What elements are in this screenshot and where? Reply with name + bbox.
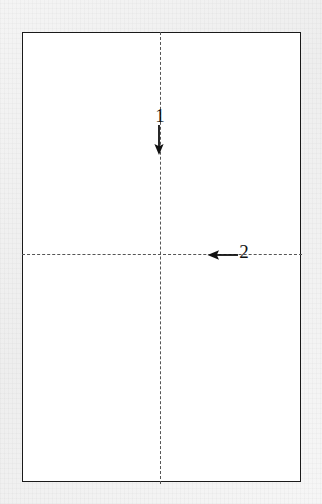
vertical-center-fold-line xyxy=(160,32,161,484)
step-label-2: 2 xyxy=(236,242,252,261)
step-label-1: 1 xyxy=(152,106,168,125)
horizontal-center-fold-line xyxy=(22,254,302,255)
paper-sheet xyxy=(22,32,301,482)
figure-canvas: 1 2 xyxy=(0,0,322,504)
